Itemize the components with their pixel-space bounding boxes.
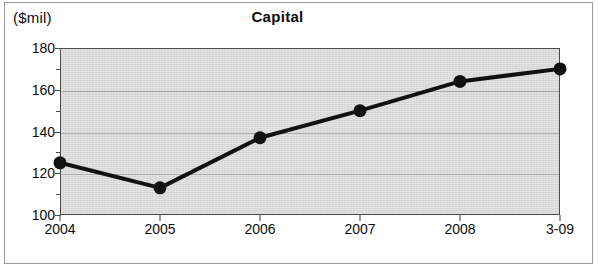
plot-region <box>60 48 560 215</box>
chart-title: Capital <box>5 8 550 25</box>
y-tick-label-140: 140 <box>9 125 55 139</box>
capital-line-series <box>60 48 560 215</box>
data-point-2006 <box>254 131 267 144</box>
x-tick-label-2005: 2005 <box>144 221 175 237</box>
x-tick-label-3-09: 3-09 <box>546 221 574 237</box>
x-tick-mark-2008 <box>460 215 461 221</box>
x-tick-mark-3-09 <box>560 215 561 221</box>
x-tick-label-2008: 2008 <box>444 221 475 237</box>
data-point-2007 <box>354 104 367 117</box>
x-tick-label-2004: 2004 <box>44 221 75 237</box>
x-tick-label-2007: 2007 <box>344 221 375 237</box>
y-tick-label-100: 100 <box>9 208 55 222</box>
y-tick-label-120: 120 <box>9 166 55 180</box>
data-point-2005 <box>154 181 167 194</box>
x-tick-label-2006: 2006 <box>244 221 275 237</box>
data-point-3-09 <box>554 62 567 75</box>
x-tick-mark-2007 <box>360 215 361 221</box>
data-point-2004 <box>54 156 67 169</box>
x-axis-labels: 200420052006200720083-09 <box>60 221 560 243</box>
x-tick-mark-2005 <box>160 215 161 221</box>
x-tick-mark-2006 <box>260 215 261 221</box>
y-tick-label-160: 160 <box>9 83 55 97</box>
data-point-2008 <box>454 75 467 88</box>
x-tick-mark-2004 <box>60 215 61 221</box>
y-axis-labels: 100120140160180 <box>5 48 55 215</box>
y-tick-label-180: 180 <box>9 41 55 55</box>
series-markers <box>54 62 567 194</box>
series-line <box>60 69 560 188</box>
chart-frame: ($mil) Capital 100120140160180 200420052… <box>4 2 593 264</box>
